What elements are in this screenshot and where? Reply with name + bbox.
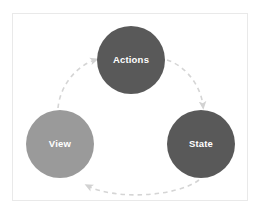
diagram-screenshot: Actions View State [0, 0, 262, 216]
node-actions-label: Actions [113, 55, 149, 65]
node-view-label: View [49, 139, 71, 149]
edge-actions-to-state [167, 60, 203, 106]
edge-state-to-view [88, 180, 199, 195]
edge-view-to-actions [58, 60, 95, 108]
node-view: View [26, 110, 94, 178]
node-state: State [167, 110, 235, 178]
node-state-label: State [189, 139, 213, 149]
node-actions: Actions [97, 26, 165, 94]
